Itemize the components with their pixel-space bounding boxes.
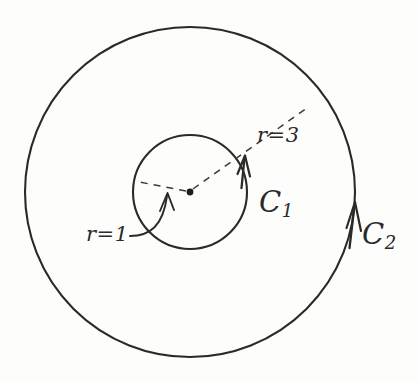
label-curve-c2: C2 — [362, 220, 396, 252]
label-c2-base: C — [362, 217, 384, 251]
label-c2-subscript: 2 — [385, 232, 396, 253]
label-c1-subscript: 1 — [282, 200, 293, 221]
label-c1-base: C — [259, 185, 281, 219]
c1-direction-arrowhead — [238, 156, 251, 189]
label-curve-c1: C1 — [259, 188, 293, 220]
diagram-canvas — [0, 0, 419, 381]
label-outer-radius: r=3 — [257, 125, 300, 146]
dashed-radius-inner — [134, 181, 186, 191]
concentric-circles-figure: r=3 r=1 C1 C2 — [0, 0, 419, 381]
label-inner-radius: r=1 — [86, 224, 129, 245]
center-point-dot — [187, 189, 194, 196]
c2-direction-arrowhead — [347, 202, 362, 248]
